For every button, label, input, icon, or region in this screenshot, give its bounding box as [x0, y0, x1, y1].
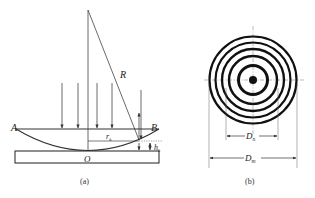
radius-line: [88, 10, 139, 140]
caption-a: (a): [80, 177, 89, 186]
lens-curved-surface: [16, 129, 159, 151]
newton-rings-diagram: A B R rk O hk (a): [0, 0, 315, 198]
label-rk: rk: [106, 132, 112, 142]
label-Dm: Dm: [244, 153, 256, 164]
label-B: B: [151, 122, 157, 133]
center-dark-spot: [249, 76, 257, 84]
label-hk: hk: [154, 143, 161, 153]
label-R: R: [119, 69, 126, 80]
gap-markers: [139, 143, 150, 150]
figure-a: A B R rk O hk (a): [10, 10, 162, 186]
incident-light-arrows: [62, 83, 141, 140]
interference-rings: [210, 37, 297, 124]
caption-b: (b): [245, 177, 255, 186]
figure-b: Dn Dm (b): [204, 26, 304, 186]
label-O: O: [84, 154, 91, 164]
label-Dn: Dn: [245, 131, 256, 142]
label-A: A: [10, 122, 18, 133]
